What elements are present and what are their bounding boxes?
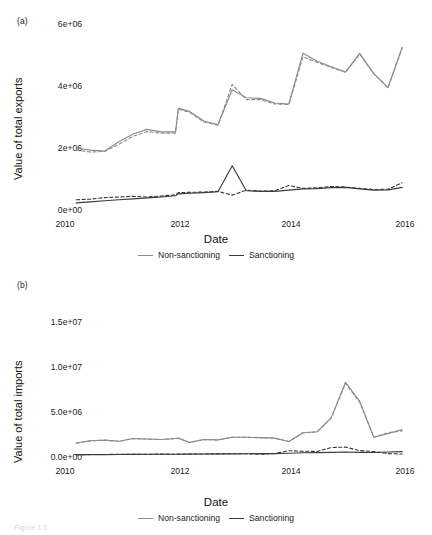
panel-b-legend: Non-sanctioning Sanctioning (0, 513, 432, 523)
legend-item-sanctioning: Sanctioning (229, 513, 294, 523)
legend-item-non-sanctioning: Non-sanctioning (138, 513, 220, 523)
series-line-0 (76, 382, 402, 443)
figure-caption-faint: Figure 1.1 (14, 524, 48, 531)
panel-a-legend: Non-sanctioning Sanctioning (0, 250, 432, 260)
series-line-1 (76, 48, 402, 152)
panel-exports: (a) Value of total exports 6e+06 4e+06 2… (0, 0, 432, 268)
series-line-2 (76, 166, 402, 203)
series-line-3 (76, 183, 402, 200)
legend-label-sanctioning: Sanctioning (249, 513, 294, 523)
legend-item-sanctioning: Sanctioning (229, 250, 294, 260)
series-line-3 (76, 447, 402, 455)
legend-label-non-sanctioning: Non-sanctioning (158, 250, 220, 260)
legend-label-non-sanctioning: Non-sanctioning (158, 513, 220, 523)
panel-imports: (b) Value of total imports 1.5e+07 1.0e+… (0, 268, 432, 535)
figure-container: (a) Value of total exports 6e+06 4e+06 2… (0, 0, 432, 535)
legend-line-icon-non-sanctioning (138, 255, 153, 256)
legend-line-icon-sanctioning (229, 518, 244, 519)
legend-line-icon-non-sanctioning (138, 518, 153, 519)
panel-b-plot-area (0, 268, 432, 508)
panel-a-plot-area (0, 0, 432, 268)
legend-label-sanctioning: Sanctioning (249, 250, 294, 260)
legend-item-non-sanctioning: Non-sanctioning (138, 250, 220, 260)
legend-line-icon-sanctioning (229, 255, 244, 256)
